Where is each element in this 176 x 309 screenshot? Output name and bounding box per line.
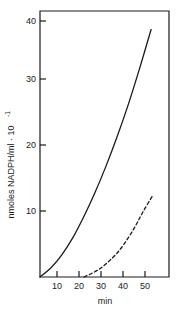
x-axis-title: min <box>98 296 113 306</box>
y-axis-title-exponent: -1 <box>4 111 11 117</box>
y-axis-title-group: nmoles NADPH/ml · 10 -1 <box>4 111 16 219</box>
plot-box <box>40 11 169 277</box>
x-axis-tick-labels: 10 20 30 40 50 <box>52 281 150 291</box>
plot-frame <box>40 11 169 277</box>
x-tick-label-30: 30 <box>96 281 106 291</box>
data-series <box>40 30 152 278</box>
y-axis-ticks <box>40 21 46 211</box>
y-tick-label-30: 30 <box>26 74 36 84</box>
y-tick-label-40: 40 <box>26 16 36 26</box>
x-tick-label-40: 40 <box>118 281 128 291</box>
series-line-solid <box>40 30 151 278</box>
x-tick-label-50: 50 <box>140 281 150 291</box>
x-tick-label-10: 10 <box>52 281 62 291</box>
x-axis-ticks <box>57 271 145 277</box>
y-tick-label-20: 20 <box>26 140 36 150</box>
y-tick-label-10: 10 <box>26 206 36 216</box>
y-axis-tick-labels: 10 20 30 40 <box>26 16 36 216</box>
y-axis-title: nmoles NADPH/ml · 10 <box>6 125 16 218</box>
chart-svg: 10 20 30 40 10 20 30 40 50 min nmoles NA… <box>0 0 176 309</box>
x-tick-label-20: 20 <box>74 281 84 291</box>
chart-figure: 10 20 30 40 10 20 30 40 50 min nmoles NA… <box>0 0 176 309</box>
series-line-dashed <box>84 196 152 277</box>
